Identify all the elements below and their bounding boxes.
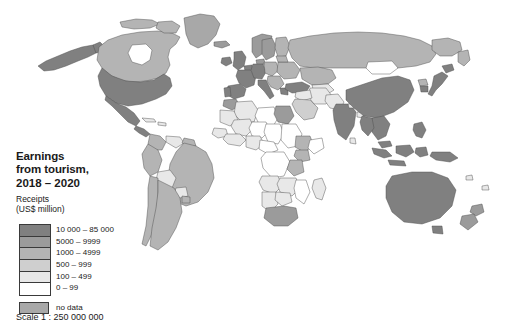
legend-label-5000-9999: 5000 – 9999 — [49, 236, 114, 248]
legend-item[interactable] — [20, 237, 50, 249]
legend-swatch-100-499 — [20, 272, 50, 284]
region-pacific-islands-1 — [466, 175, 473, 180]
region-baltics — [276, 56, 288, 62]
legend-item[interactable] — [20, 272, 50, 284]
legend-label-500-999: 500 – 999 — [49, 259, 114, 271]
region-pacific-islands-2 — [482, 185, 489, 190]
legend-swatch-10000-85000 — [20, 225, 50, 237]
legend-label-0-99: 0 – 99 — [49, 282, 114, 294]
legend-swatch-stack — [19, 224, 51, 296]
region-uruguay — [182, 196, 190, 203]
legend-label-stack: 10 000 – 85 000 5000 – 9999 1000 – 4999 … — [49, 224, 114, 294]
legend-swatch-500-999 — [20, 260, 50, 272]
region-indonesia-java — [388, 160, 406, 166]
legend-heading: Receipts (US$ million) — [16, 194, 136, 214]
region-south-korea — [420, 86, 428, 92]
legend-label-1000-4999: 1000 – 4999 — [49, 247, 114, 259]
region-portugal — [224, 87, 231, 97]
legend-item[interactable] — [20, 260, 50, 272]
region-north-korea — [418, 79, 428, 86]
legend-item[interactable] — [20, 225, 50, 237]
map-legend: 10 000 – 85 000 5000 – 9999 1000 – 4999 … — [19, 224, 83, 314]
legend-label-100-499: 100 – 499 — [49, 271, 114, 283]
map-period-label: 2018 – 2020 — [16, 176, 136, 190]
legend-swatch-5000-9999 — [20, 237, 50, 249]
legend-item[interactable] — [20, 283, 50, 295]
legend-item[interactable] — [20, 248, 50, 260]
legend-swatch-1000-4999 — [20, 248, 50, 260]
map-scale-text: Scale 1 : 250 000 000 — [16, 312, 104, 323]
page-title: Earnings from tourism, — [16, 150, 136, 176]
region-sri-lanka — [350, 138, 356, 144]
region-tasmania — [432, 226, 443, 234]
legend-swatch-0-99 — [20, 283, 50, 295]
tourism-earnings-map-figure: .ld{fill:#808080;} /* 10 000 - 85 000 */… — [0, 0, 509, 336]
map-title-block: Earnings from tourism, 2018 – 2020 Recei… — [16, 150, 136, 214]
legend-label-10000-85000: 10 000 – 85 000 — [49, 224, 114, 236]
